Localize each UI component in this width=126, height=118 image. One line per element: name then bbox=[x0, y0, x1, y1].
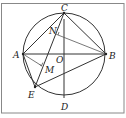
segment-ae bbox=[23, 54, 35, 87]
right-angle-mark-m bbox=[40, 63, 43, 66]
label-n: N bbox=[48, 26, 58, 36]
label-e: E bbox=[27, 90, 35, 100]
label-d: D bbox=[60, 102, 68, 112]
geometry-figure: C A B O M N E D bbox=[0, 0, 126, 118]
segment-ac bbox=[23, 13, 64, 54]
point-a bbox=[22, 53, 24, 55]
label-c: C bbox=[61, 3, 68, 13]
label-a: A bbox=[12, 50, 20, 60]
segment-bn bbox=[58, 35, 106, 54]
label-m: M bbox=[44, 65, 55, 75]
label-o: O bbox=[56, 55, 64, 65]
segment-am bbox=[23, 54, 42, 66]
point-b bbox=[105, 53, 107, 55]
point-e bbox=[34, 86, 36, 88]
label-b: B bbox=[108, 51, 116, 61]
